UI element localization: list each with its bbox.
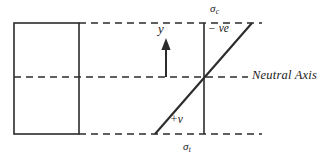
beam-cross-section-rect <box>14 23 79 134</box>
neutral-axis-label: Neutral Axis <box>252 69 317 82</box>
y-direction-arrow <box>161 38 170 77</box>
positive-stress-label: +v <box>170 114 183 126</box>
sigma-compression-label: σc <box>210 3 219 16</box>
negative-stress-label: − ve <box>208 23 229 35</box>
sigma-tension-label: σt <box>183 141 191 154</box>
sigma-tension-subscript: t <box>188 145 190 154</box>
y-distance-label: y <box>158 22 164 35</box>
sigma-compression-subscript: c <box>215 7 219 16</box>
bending-stress-diagram: Neutral Axis y − ve +v σc σt <box>0 0 333 159</box>
